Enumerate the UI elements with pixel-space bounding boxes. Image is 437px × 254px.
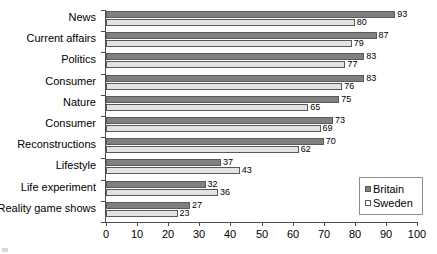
bar-sweden [106, 146, 299, 153]
legend-swatch-sweden [365, 200, 371, 206]
x-axis-tick-label: 20 [153, 229, 183, 240]
category-label: Nature [63, 97, 96, 108]
bar-sweden [106, 167, 240, 174]
x-axis-tick [168, 222, 169, 226]
bar-value-label: 70 [326, 137, 336, 146]
bar-britain [106, 202, 190, 209]
y-axis-tick [101, 222, 105, 223]
category-label: Consumer [45, 76, 96, 87]
bar-value-label: 75 [341, 95, 351, 104]
bar-sweden [106, 189, 218, 196]
y-axis-tick [101, 10, 105, 11]
category-label: Reality game shows [0, 203, 96, 214]
chart-legend: BritainSweden [359, 177, 423, 215]
x-axis-tick [324, 222, 325, 226]
x-axis-tick [199, 222, 200, 226]
bar-sweden [106, 210, 178, 217]
x-axis-tick [230, 222, 231, 226]
x-axis-tick [417, 222, 418, 226]
bar-value-label: 83 [366, 52, 376, 61]
legend-item: Britain [365, 182, 422, 196]
x-axis-tick-label: 90 [371, 229, 401, 240]
x-axis-tick-label: 60 [278, 229, 308, 240]
bar-sweden [106, 40, 352, 47]
bar-value-label: 76 [344, 82, 354, 91]
bar-britain [106, 32, 377, 39]
bar-value-label: 87 [379, 31, 389, 40]
bar-value-label: 36 [220, 188, 230, 197]
y-axis-tick [101, 180, 105, 181]
bar-value-label: 23 [180, 209, 190, 218]
y-axis-tick [101, 116, 105, 117]
bar-chart: NewsCurrent affairsPoliticsConsumerNatur… [0, 0, 437, 254]
bar-britain [106, 11, 395, 18]
x-axis-tick-label: 70 [309, 229, 339, 240]
bar-value-label: 80 [357, 18, 367, 27]
y-axis-tick [101, 137, 105, 138]
bar-britain [106, 117, 333, 124]
bar-sweden [106, 104, 308, 111]
category-label: Politics [61, 54, 96, 65]
bar-value-label: 62 [301, 145, 311, 154]
legend-label: Sweden [373, 198, 413, 209]
category-label: Lifestyle [56, 160, 96, 171]
x-axis-tick-label: 80 [340, 229, 370, 240]
bar-value-label: 37 [223, 158, 233, 167]
bar-value-label: 32 [208, 180, 218, 189]
bar-sweden [106, 125, 321, 132]
legend-item: Sweden [365, 196, 422, 210]
bar-sweden [106, 19, 355, 26]
bar-sweden [106, 61, 345, 68]
bar-value-label: 69 [323, 124, 333, 133]
x-axis-tick-label: 30 [184, 229, 214, 240]
legend-label: Britain [373, 184, 404, 195]
bar-value-label: 73 [335, 116, 345, 125]
y-axis-tick [101, 158, 105, 159]
bar-britain [106, 159, 221, 166]
x-axis-tick [106, 222, 107, 226]
y-axis-tick [101, 201, 105, 202]
category-label: Current affairs [27, 33, 97, 44]
bar-value-label: 65 [310, 103, 320, 112]
category-label: Consumer [45, 118, 96, 129]
y-axis-tick [101, 52, 105, 53]
category-label: Reconstructions [17, 139, 96, 150]
corner-artifact [2, 248, 8, 252]
bar-value-label: 43 [242, 166, 252, 175]
x-axis-line [105, 222, 417, 223]
x-axis-tick-label: 40 [215, 229, 245, 240]
y-axis-tick [101, 31, 105, 32]
bar-sweden [106, 83, 342, 90]
y-axis-tick [101, 95, 105, 96]
bar-value-label: 93 [397, 10, 407, 19]
bar-value-label: 79 [354, 39, 364, 48]
bar-value-label: 27 [192, 201, 202, 210]
category-label: News [68, 12, 96, 23]
bar-value-label: 77 [347, 60, 357, 69]
x-axis-tick [386, 222, 387, 226]
bar-britain [106, 75, 364, 82]
legend-swatch-britain [365, 186, 371, 192]
x-axis-tick-label: 100 [402, 229, 432, 240]
category-label: Life experiment [21, 182, 96, 193]
y-axis-tick [101, 74, 105, 75]
bar-britain [106, 96, 339, 103]
x-axis-tick [137, 222, 138, 226]
x-axis-tick-label: 50 [247, 229, 277, 240]
x-axis-tick [262, 222, 263, 226]
category-axis-labels: NewsCurrent affairsPoliticsConsumerNatur… [0, 10, 100, 222]
x-axis-tick-label: 0 [91, 229, 121, 240]
x-axis-tick [293, 222, 294, 226]
bar-britain [106, 53, 364, 60]
x-axis-tick [355, 222, 356, 226]
bar-britain [106, 138, 324, 145]
bar-britain [106, 181, 206, 188]
x-axis-tick-label: 10 [122, 229, 152, 240]
bar-value-label: 83 [366, 74, 376, 83]
